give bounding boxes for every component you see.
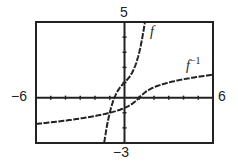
f-inverse-curve-label: f−1: [186, 56, 201, 73]
x-min-label: −6: [11, 89, 27, 103]
y-max-label: 5: [120, 5, 128, 19]
f-curve-label: f: [150, 25, 154, 39]
y-min-label: −3: [113, 145, 129, 159]
x-max-label: 6: [218, 89, 226, 103]
chart-plot: [0, 0, 238, 161]
